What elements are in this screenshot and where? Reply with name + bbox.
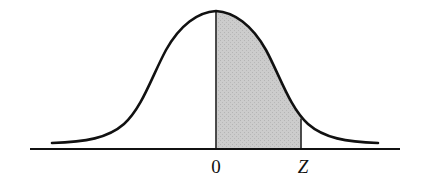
bell-curve-path — [52, 11, 378, 143]
axis-label-z: Z — [290, 157, 316, 176]
shaded-area-path — [52, 11, 378, 149]
normal-curve-figure: 0 Z — [0, 0, 426, 184]
shaded-area-0-to-z — [52, 11, 378, 149]
axis-label-zero: 0 — [203, 157, 229, 176]
